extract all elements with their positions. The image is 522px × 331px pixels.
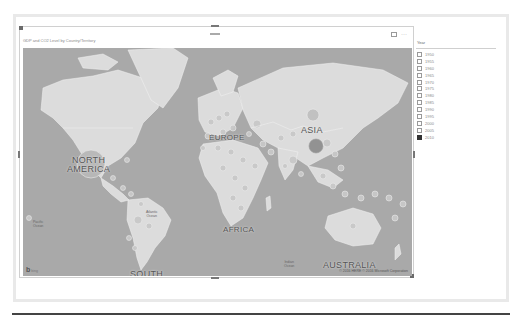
- resize-handle-top-left[interactable]: [19, 26, 23, 30]
- slicer-title: Year: [416, 40, 500, 48]
- slicer-item-label: 1990: [425, 107, 434, 112]
- checkbox-checked[interactable]: [417, 135, 422, 140]
- year-slicer[interactable]: Year 1950 1955 1960 1965 1970 1975 1980 …: [416, 40, 500, 140]
- slicer-item-label: 1965: [425, 73, 434, 78]
- checkbox-unchecked[interactable]: [417, 121, 422, 126]
- map-attribution[interactable]: © 2016 HERE © 2016 Microsoft Corporation: [339, 269, 408, 273]
- checkbox-unchecked[interactable]: [417, 114, 422, 119]
- map-visual[interactable]: GDP and CO2 Level by Country/Territory ·…: [19, 26, 414, 309]
- ocean-label-pacific: Pacific Ocean: [33, 220, 43, 228]
- checkbox-unchecked[interactable]: [417, 80, 422, 85]
- slicer-item-1960[interactable]: 1960: [416, 65, 500, 72]
- region-label-north-america: NORTH AMERICA: [67, 156, 110, 174]
- checkbox-unchecked[interactable]: [417, 128, 422, 133]
- bubble-map[interactable]: NORTH AMERICA EUROPE ASIA AFRICA SOUTH A…: [23, 48, 412, 276]
- checkbox-unchecked[interactable]: [417, 107, 422, 112]
- slicer-item-1980[interactable]: 1980: [416, 92, 500, 99]
- visual-title: GDP and CO2 Level by Country/Territory: [23, 38, 95, 43]
- resize-handle-right[interactable]: [413, 151, 415, 158]
- slicer-item-label: 2000: [425, 121, 434, 126]
- resize-handle-bottom[interactable]: [211, 277, 219, 279]
- slicer-item-2010[interactable]: 2010: [416, 134, 500, 141]
- visual-header-actions: ···: [391, 32, 407, 37]
- slicer-item-1995[interactable]: 1995: [416, 113, 500, 120]
- ocean-label-indian: Indian Ocean: [284, 260, 294, 268]
- ocean-label-atlantic: Atlantic Ocean: [146, 210, 157, 218]
- visual-selection-border: GDP and CO2 Level by Country/Territory ·…: [19, 26, 414, 278]
- focus-mode-icon[interactable]: [391, 32, 397, 37]
- checkbox-unchecked[interactable]: [417, 100, 422, 105]
- slicer-item-1965[interactable]: 1965: [416, 72, 500, 79]
- slicer-item-1975[interactable]: 1975: [416, 85, 500, 92]
- region-label-asia: ASIA: [301, 126, 323, 135]
- slicer-item-label: 1955: [425, 59, 434, 64]
- more-options-icon[interactable]: ···: [401, 32, 407, 37]
- slicer-item-1985[interactable]: 1985: [416, 99, 500, 106]
- slicer-item-label: 1960: [425, 66, 434, 71]
- drag-grip-icon[interactable]: [210, 33, 220, 35]
- slicer-item-1950[interactable]: 1950: [416, 51, 500, 58]
- slicer-item-label: 1970: [425, 80, 434, 85]
- page-divider: [12, 313, 510, 315]
- slicer-item-1990[interactable]: 1990: [416, 106, 500, 113]
- checkbox-unchecked[interactable]: [417, 52, 422, 57]
- slicer-item-label: 1980: [425, 93, 434, 98]
- checkbox-unchecked[interactable]: [417, 66, 422, 71]
- slicer-item-label: 1950: [425, 52, 434, 57]
- slicer-item-2005[interactable]: 2005: [416, 127, 500, 134]
- checkbox-unchecked[interactable]: [417, 59, 422, 64]
- bing-logo: bbing: [26, 266, 38, 273]
- resize-handle-top[interactable]: [211, 25, 219, 27]
- region-label-africa: AFRICA: [223, 225, 254, 234]
- resize-handle-left[interactable]: [18, 151, 20, 158]
- slicer-item-label: 1995: [425, 114, 434, 119]
- region-label-europe: EUROPE: [209, 133, 245, 142]
- checkbox-unchecked[interactable]: [417, 93, 422, 98]
- checkbox-unchecked[interactable]: [417, 86, 422, 91]
- slicer-item-label: 1985: [425, 100, 434, 105]
- checkbox-unchecked[interactable]: [417, 73, 422, 78]
- slicer-item-label: 2005: [425, 128, 434, 133]
- slicer-item-1955[interactable]: 1955: [416, 58, 500, 65]
- slicer-item-2000[interactable]: 2000: [416, 120, 500, 127]
- slicer-item-label: 2010: [425, 135, 434, 140]
- slicer-item-1970[interactable]: 1970: [416, 79, 500, 86]
- slicer-item-label: 1975: [425, 86, 434, 91]
- slicer-divider: [416, 48, 496, 49]
- region-label-south-america: SOUTH AMERICA: [125, 270, 168, 276]
